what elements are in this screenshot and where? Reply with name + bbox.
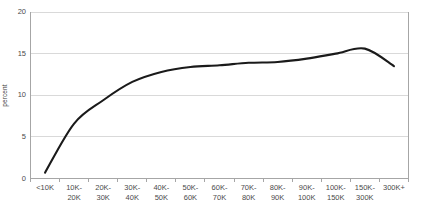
- chart-container: percent 05101520 <10K10K- 20K20K- 30K30K…: [0, 0, 421, 216]
- gridlines: [31, 12, 409, 179]
- data-series-line: [45, 48, 394, 173]
- chart-plot-area: [0, 0, 421, 216]
